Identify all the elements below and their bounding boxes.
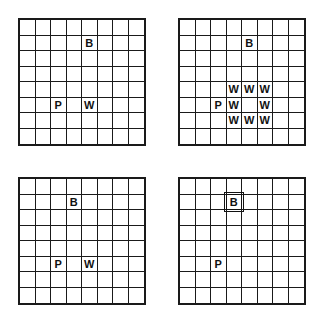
grid-cell bbox=[180, 20, 196, 36]
grid-cell bbox=[51, 20, 67, 36]
grid-cell bbox=[20, 113, 36, 129]
grid-cell bbox=[129, 20, 145, 36]
grid-cell bbox=[196, 210, 212, 226]
grid-cell bbox=[227, 20, 243, 36]
grid-cell bbox=[129, 257, 145, 273]
grid-cell bbox=[82, 195, 98, 211]
grid-cell bbox=[113, 51, 129, 67]
grid-cell bbox=[289, 98, 305, 114]
grid-cell bbox=[20, 82, 36, 98]
grid-cell bbox=[180, 36, 196, 52]
grid-cell bbox=[129, 226, 145, 242]
grid-cell-p: P bbox=[51, 98, 67, 114]
grid-cell bbox=[289, 51, 305, 67]
grid-cell bbox=[258, 241, 274, 257]
grid-cell-w: W bbox=[227, 98, 243, 114]
grid-cell bbox=[51, 113, 67, 129]
grid-cell bbox=[289, 226, 305, 242]
grid-cell-w: W bbox=[227, 82, 243, 98]
grid-panel-top-left: BPW bbox=[18, 18, 146, 146]
grid-cell bbox=[196, 98, 212, 114]
grid-cell bbox=[98, 195, 114, 211]
grid-cell bbox=[289, 195, 305, 211]
grid-cell bbox=[227, 226, 243, 242]
grid-cell bbox=[196, 36, 212, 52]
grid-cell bbox=[113, 210, 129, 226]
grid-cell bbox=[51, 51, 67, 67]
grid-cell bbox=[20, 241, 36, 257]
grid-cell bbox=[20, 36, 36, 52]
grid-cell bbox=[180, 98, 196, 114]
grid-cell bbox=[129, 67, 145, 83]
grid-cell bbox=[113, 129, 129, 145]
grid-cell bbox=[242, 195, 258, 211]
grid-cell bbox=[273, 20, 289, 36]
grid-cell bbox=[258, 20, 274, 36]
grid-panel-bottom-right: BP bbox=[178, 177, 306, 305]
grid-cell bbox=[242, 241, 258, 257]
grid-cell bbox=[67, 179, 83, 195]
grid-cell-w: W bbox=[242, 113, 258, 129]
grid-cell bbox=[113, 272, 129, 288]
grid-cell bbox=[289, 241, 305, 257]
grid-cell bbox=[51, 226, 67, 242]
grid-cell bbox=[227, 67, 243, 83]
grid-cell bbox=[242, 51, 258, 67]
grid-cell bbox=[258, 272, 274, 288]
grid-cell bbox=[242, 288, 258, 304]
grid-cell bbox=[67, 241, 83, 257]
grid-cell bbox=[180, 195, 196, 211]
grid-cell bbox=[82, 82, 98, 98]
grid-cell bbox=[273, 241, 289, 257]
grid-cell bbox=[36, 195, 52, 211]
grid-cell bbox=[258, 257, 274, 273]
grid-cell bbox=[273, 67, 289, 83]
grid-cell bbox=[67, 36, 83, 52]
grid-cell bbox=[36, 272, 52, 288]
grid-cell bbox=[82, 20, 98, 36]
grid-cell bbox=[227, 210, 243, 226]
grid-cell bbox=[98, 241, 114, 257]
grid-cell-w: W bbox=[258, 98, 274, 114]
grid-cell bbox=[129, 36, 145, 52]
grid-cell bbox=[289, 129, 305, 145]
grid-cell bbox=[20, 288, 36, 304]
grid-cell-b: B bbox=[82, 36, 98, 52]
grid-cell bbox=[98, 129, 114, 145]
grid-cell bbox=[242, 98, 258, 114]
grid-cell bbox=[36, 226, 52, 242]
grid-cell bbox=[258, 36, 274, 52]
grid-cell bbox=[51, 129, 67, 145]
grid-cell bbox=[273, 195, 289, 211]
grid-cell bbox=[273, 36, 289, 52]
grid-cell bbox=[98, 272, 114, 288]
grid-cell bbox=[211, 129, 227, 145]
grid-cell-p: P bbox=[51, 257, 67, 273]
grid-cell bbox=[51, 210, 67, 226]
grid-cell bbox=[129, 179, 145, 195]
grid-cell bbox=[67, 226, 83, 242]
grid-cell-w: W bbox=[258, 82, 274, 98]
grid-cell bbox=[227, 129, 243, 145]
grid-cell-w: W bbox=[258, 113, 274, 129]
grid-cell bbox=[211, 36, 227, 52]
grid-cell bbox=[273, 210, 289, 226]
grid-panel-bottom-left: BPW bbox=[18, 177, 146, 305]
grid-cell bbox=[67, 67, 83, 83]
grid-cell bbox=[20, 129, 36, 145]
grid-cell bbox=[98, 67, 114, 83]
grid-cell bbox=[242, 129, 258, 145]
grid-cell bbox=[129, 288, 145, 304]
grid-cell bbox=[36, 36, 52, 52]
grid-cell bbox=[211, 226, 227, 242]
grid-cell bbox=[36, 113, 52, 129]
grid-cell bbox=[211, 20, 227, 36]
grid-cell bbox=[180, 82, 196, 98]
grid-cell bbox=[211, 241, 227, 257]
grid-cell bbox=[113, 20, 129, 36]
grid-cell bbox=[129, 241, 145, 257]
grid-cell bbox=[20, 210, 36, 226]
grid-cell bbox=[98, 210, 114, 226]
grid-cell bbox=[67, 51, 83, 67]
grid-cell bbox=[258, 129, 274, 145]
